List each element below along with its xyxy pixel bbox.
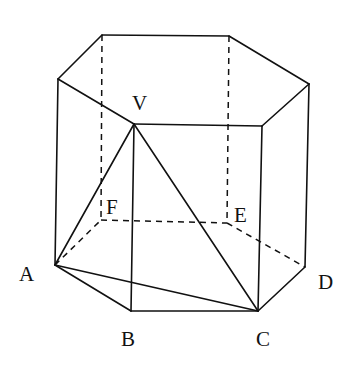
edge-ta-a (55, 79, 58, 265)
hexagonal-prism-figure (0, 0, 355, 373)
vertex-label-b: B (121, 329, 135, 350)
edge-tc-c (258, 126, 262, 311)
hidden-edge-a-f (55, 220, 101, 265)
vertex-label-e: E (234, 205, 247, 226)
hidden-edge-e-d (227, 223, 305, 267)
hidden-edge-te-e (227, 36, 229, 223)
edge-a-b (55, 265, 131, 311)
hidden-edge-f-e (101, 220, 227, 223)
vertex-label-a: A (19, 264, 34, 285)
vertex-label-c: C (256, 329, 270, 350)
vertex-label-f: F (106, 197, 118, 218)
edge-v-ta (58, 79, 134, 124)
edge-ta-tf (58, 35, 102, 79)
edge-a-c (55, 265, 258, 311)
prism-diagram: V F E A D B C (0, 0, 355, 373)
edge-v-a (55, 124, 134, 265)
edge-td-d (305, 84, 309, 267)
edge-c-d (258, 267, 305, 311)
edge-te-td (229, 36, 309, 84)
vertex-label-d: D (318, 272, 333, 293)
edge-td-tc (262, 84, 309, 126)
vertex-label-v: V (132, 93, 147, 114)
edge-tc-v (134, 124, 262, 126)
hidden-edge-tf-f (101, 35, 102, 220)
edge-tf-te (102, 35, 229, 36)
